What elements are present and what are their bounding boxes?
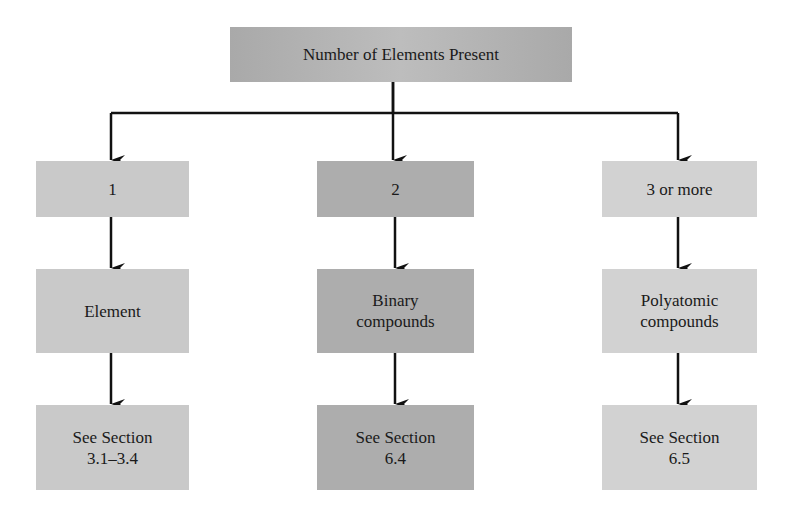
reference-line1: See Section [356, 427, 436, 448]
reference-line2: 6.5 [640, 448, 720, 469]
reference-line1: See Section [640, 427, 720, 448]
root-label: Number of Elements Present [303, 44, 499, 65]
category-label-line2: compounds [640, 311, 718, 332]
node-section-6-4: See Section 6.4 [317, 405, 474, 490]
node-count-1: 1 [36, 161, 189, 217]
root-node: Number of Elements Present [230, 27, 572, 82]
reference-line1: See Section [73, 427, 153, 448]
category-label-line1: Binary [356, 290, 434, 311]
category-label-line1: Polyatomic [640, 290, 718, 311]
node-count-2: 2 [317, 161, 474, 217]
node-section-6-5: See Section 6.5 [602, 405, 757, 490]
category-label-line2: compounds [356, 311, 434, 332]
node-element: Element [36, 269, 189, 353]
count-label: 1 [108, 179, 117, 200]
node-polyatomic-compounds: Polyatomic compounds [602, 269, 757, 353]
node-section-3-1-3-4: See Section 3.1–3.4 [36, 405, 189, 490]
count-label: 3 or more [646, 179, 712, 200]
count-label: 2 [391, 179, 400, 200]
node-binary-compounds: Binary compounds [317, 269, 474, 353]
category-label: Element [84, 301, 141, 322]
reference-line2: 6.4 [356, 448, 436, 469]
node-count-3-or-more: 3 or more [602, 161, 757, 217]
reference-line2: 3.1–3.4 [73, 448, 153, 469]
